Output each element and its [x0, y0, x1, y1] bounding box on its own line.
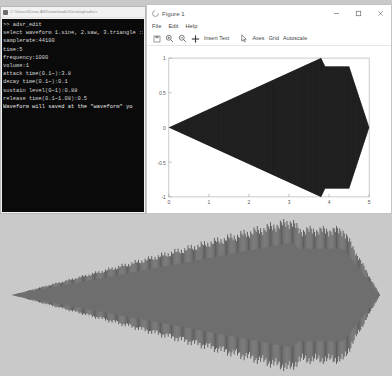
close-button[interactable] — [369, 5, 391, 22]
console-line: select waveform 1.sine, 2.saw, 3.triangl… — [3, 29, 143, 37]
console-line: samplerate:44100 — [3, 37, 143, 45]
waveform-plot-area[interactable] — [12, 219, 380, 371]
grid-button[interactable]: Grid — [269, 36, 279, 41]
console-icon — [3, 10, 8, 15]
menu-edit[interactable]: Edit — [168, 24, 178, 30]
y-tick-label: 0.5 — [159, 90, 166, 96]
cmd-title-text: C:\Users\Drive-All\Downloads\Desktop\ads… — [10, 10, 98, 14]
matplotlib-icon — [152, 10, 159, 17]
figure-titlebar[interactable]: Figure 1 — [147, 5, 391, 22]
zoom-in-icon[interactable] — [165, 34, 174, 43]
console-line: Waveform will saved at the "waveform" yo — [3, 103, 143, 111]
menu-help[interactable]: Help — [185, 24, 197, 30]
y-tick-label: -0.5 — [157, 159, 166, 165]
console-line: sustain level(0~1):0.88 — [3, 87, 143, 95]
console-line: volume:1 — [3, 62, 143, 70]
axes-button[interactable]: Axes — [252, 36, 264, 41]
waveform-render — [12, 219, 380, 371]
autoscale-button[interactable]: Autoscale — [283, 36, 307, 41]
command-prompt-window[interactable]: C:\Users\Drive-All\Downloads\Desktop\ads… — [0, 6, 146, 214]
x-tick-label: 3 — [288, 199, 291, 205]
insert-text-button[interactable]: Insert Text — [204, 36, 229, 41]
x-tick-label: 4 — [328, 199, 331, 205]
figure-toolbar[interactable]: Insert Text Axes Grid Autoscale — [147, 32, 391, 46]
cmd-console-output[interactable]: >> adsr_edit select waveform 1.sine, 2.s… — [2, 19, 144, 212]
console-line: release time(0.1~1.08):0.5 — [3, 95, 143, 103]
console-line: decay time(0.1~):0.1 — [3, 78, 143, 86]
adsr-envelope-plot: 1 0.5 0 -0.5 -1 0 1 2 3 4 5 — [147, 46, 391, 213]
figure-window[interactable]: Figure 1 File Edit Help — [146, 4, 392, 214]
console-line: time:5 — [3, 46, 143, 54]
cursor-icon[interactable] — [239, 34, 248, 43]
pan-icon[interactable] — [191, 34, 200, 43]
x-tick-label: 2 — [248, 199, 251, 205]
console-line: attack time(0.1~):3.8 — [3, 70, 143, 78]
figure-menubar[interactable]: File Edit Help — [147, 22, 391, 32]
waveform-panel[interactable] — [0, 214, 392, 376]
menu-file[interactable]: File — [152, 24, 161, 30]
x-tick-label: 5 — [368, 199, 371, 205]
zoom-out-icon[interactable] — [178, 34, 187, 43]
console-line: frequency:1000 — [3, 54, 143, 62]
y-tick-label: -1 — [161, 194, 166, 200]
x-tick-label: 1 — [208, 199, 211, 205]
save-icon[interactable] — [152, 34, 161, 43]
x-tick-label: 0 — [167, 199, 170, 205]
cmd-titlebar[interactable]: C:\Users\Drive-All\Downloads\Desktop\ads… — [1, 7, 145, 18]
minimize-button[interactable] — [325, 5, 347, 22]
plot-canvas[interactable]: 1 0.5 0 -0.5 -1 0 1 2 3 4 5 — [147, 46, 391, 213]
maximize-button[interactable] — [347, 5, 369, 22]
y-tick-label: 0 — [163, 125, 166, 131]
y-tick-label: 1 — [163, 55, 166, 61]
console-line: >> adsr_edit — [3, 21, 143, 29]
figure-title-text: Figure 1 — [162, 11, 325, 17]
